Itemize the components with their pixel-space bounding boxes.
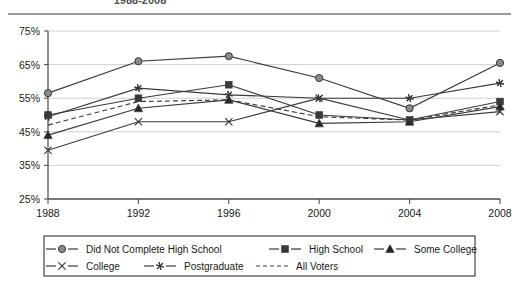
data-point-circle [225,53,232,60]
y-tick-label: 55% [19,92,40,104]
data-point-circle [496,59,503,66]
data-point-square [282,246,289,253]
data-point-square [316,112,323,119]
legend-label: All Voters [296,261,338,272]
x-tick-label: 1988 [36,207,60,219]
legend-label: High School [309,244,363,255]
line-chart: 1988-2008 25%35%45%55%65%75% 19881992199… [0,0,519,282]
legend-label: Some College [414,244,477,255]
data-point-square [226,81,233,88]
data-point-circle [135,58,142,65]
y-tick-label: 45% [19,126,40,138]
legend-label: Postgraduate [184,261,244,272]
y-tick-label: 75% [19,25,40,37]
data-point-circle [406,105,413,112]
chart-container: 1988-2008 25%35%45%55%65%75% 19881992199… [0,0,519,282]
x-tick-label: 2008 [488,207,512,219]
x-tick-label: 2000 [308,207,332,219]
data-point-circle [316,74,323,81]
data-point-circle [58,245,65,252]
x-tick-label: 1992 [127,207,151,219]
legend-label: College [86,261,120,272]
chart-title: 1988-2008 [114,0,167,6]
y-tick-label: 35% [19,159,40,171]
y-tick-label: 25% [19,193,40,205]
legend-label: Did Not Complete High School [86,244,222,255]
x-tick-label: 2004 [398,207,422,219]
x-tick-label: 1996 [217,207,241,219]
data-point-square [135,95,142,102]
y-tick-label: 65% [19,59,40,71]
data-point-circle [44,90,51,97]
